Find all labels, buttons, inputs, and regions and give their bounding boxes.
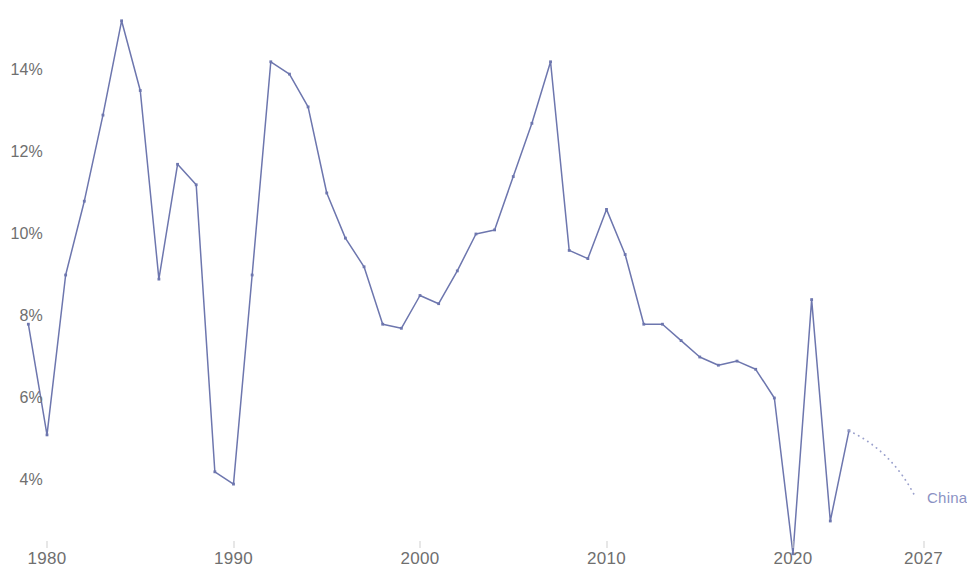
x-axis-tickmark	[233, 541, 234, 548]
x-axis-tick-label: 2000	[400, 549, 439, 569]
y-axis-tick-label: 10%	[0, 225, 43, 243]
series-china-markers	[27, 19, 850, 555]
x-axis-tickmark	[606, 541, 607, 548]
trend-dotted-leader	[849, 431, 916, 499]
x-axis-tickmark	[793, 541, 794, 548]
x-axis-tick-label: 2027	[904, 549, 943, 569]
y-axis-tick-label: 12%	[0, 143, 43, 161]
x-axis-tick-label: 1990	[214, 549, 253, 569]
x-axis-tickmark	[923, 541, 924, 548]
x-axis-tick-label: 1980	[27, 549, 66, 569]
series-china-line	[28, 21, 849, 554]
x-axis-tick-label: 2020	[773, 549, 812, 569]
series-label-china: China	[927, 489, 967, 506]
y-axis-tick-label: 4%	[0, 471, 43, 489]
y-axis-tick-label: 8%	[0, 307, 43, 325]
x-axis-tickmark	[47, 541, 48, 548]
y-axis-tick-label: 14%	[0, 61, 43, 79]
x-axis-tickmark	[420, 541, 421, 548]
x-axis-tick-label: 2010	[587, 549, 626, 569]
y-axis-tick-label: 6%	[0, 389, 43, 407]
